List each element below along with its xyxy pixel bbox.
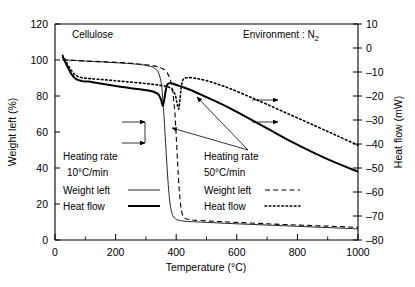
legend-50c-heat-label: Heat flow xyxy=(204,201,246,212)
arrow-to-weight-50c xyxy=(172,128,248,150)
x-tick-label: 1000 xyxy=(346,246,370,258)
sample-label: Cellulose xyxy=(72,29,114,40)
legend-50c: Heating rate 50°C/min Weight left Heat f… xyxy=(204,151,300,212)
left-axis-ticks: 020406080100120 xyxy=(30,18,60,246)
x-tick-label: 0 xyxy=(52,246,58,258)
right-tick-label: –60 xyxy=(366,186,384,198)
environment-label: Environment : N2 xyxy=(243,29,319,43)
legend-10c-heat-label: Heat flow xyxy=(63,201,105,212)
x-tick-label: 600 xyxy=(228,246,246,258)
left-tick-label: 40 xyxy=(36,162,48,174)
left-tick-label: 120 xyxy=(30,18,48,30)
x-tick-label: 800 xyxy=(289,246,307,258)
legend-50c-rate: 50°C/min xyxy=(204,167,245,178)
left-tick-label: 60 xyxy=(36,126,48,138)
right-tick-label: –40 xyxy=(366,138,384,150)
left-tick-label: 100 xyxy=(30,54,48,66)
legend-10c-title: Heating rate xyxy=(63,151,118,162)
right-tick-label: 0 xyxy=(366,42,372,54)
left-tick-label: 20 xyxy=(36,198,48,210)
legend-50c-weight-label: Weight left xyxy=(204,185,251,196)
left-tick-label: 80 xyxy=(36,90,48,102)
right-tick-label: –30 xyxy=(366,114,384,126)
x-tick-label: 400 xyxy=(167,246,185,258)
right-tick-label: –70 xyxy=(366,210,384,222)
y-right-axis-title: Heat flow (mW) xyxy=(392,96,404,168)
bottom-axis-ticks: 02004006008001000 xyxy=(52,234,370,258)
legend-50c-title: Heating rate xyxy=(204,151,259,162)
legend-10c: Heating rate 10°C/min Weight left Heat f… xyxy=(63,151,160,212)
x-tick-label: 200 xyxy=(107,246,125,258)
legend-10c-weight-label: Weight left xyxy=(63,185,110,196)
right-tick-label: –10 xyxy=(366,66,384,78)
right-tick-label: –50 xyxy=(366,162,384,174)
right-tick-label: –20 xyxy=(366,90,384,102)
right-tick-label: –80 xyxy=(366,234,384,246)
curve-heat-flow-50-c-min xyxy=(63,55,358,145)
x-axis-title: Temperature (°C) xyxy=(166,261,247,273)
y-left-axis-title: Weight left (%) xyxy=(6,98,18,167)
annotation-arrows xyxy=(122,97,278,150)
left-tick-label: 0 xyxy=(42,234,48,246)
legend-10c-rate: 10°C/min xyxy=(67,167,108,178)
right-tick-label: 10 xyxy=(366,18,378,30)
figure-container: 020406080100120 100–10–20–30–40–50–60–70… xyxy=(0,0,415,287)
tga-dsc-chart: 020406080100120 100–10–20–30–40–50–60–70… xyxy=(0,0,415,287)
